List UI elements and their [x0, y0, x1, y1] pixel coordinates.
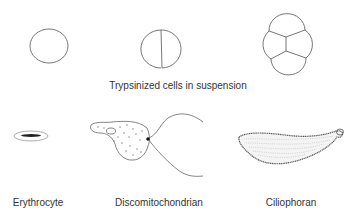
- diagram-canvas: [0, 0, 363, 214]
- two-cell-figure: [141, 30, 181, 68]
- erythrocyte-figure: [14, 131, 48, 141]
- discomitochondrian-label: Discomitochondrian: [115, 197, 203, 208]
- ciliophoran-figure: [239, 129, 344, 164]
- discomitochondrian-figure: [91, 114, 203, 176]
- single-cell-figure: [30, 29, 68, 63]
- erythrocyte-label: Erythrocyte: [13, 197, 64, 208]
- top-row-caption: Trypsinized cells in suspension: [109, 80, 246, 91]
- ciliophoran-label: Ciliophoran: [266, 197, 317, 208]
- four-cell-figure: [263, 14, 312, 75]
